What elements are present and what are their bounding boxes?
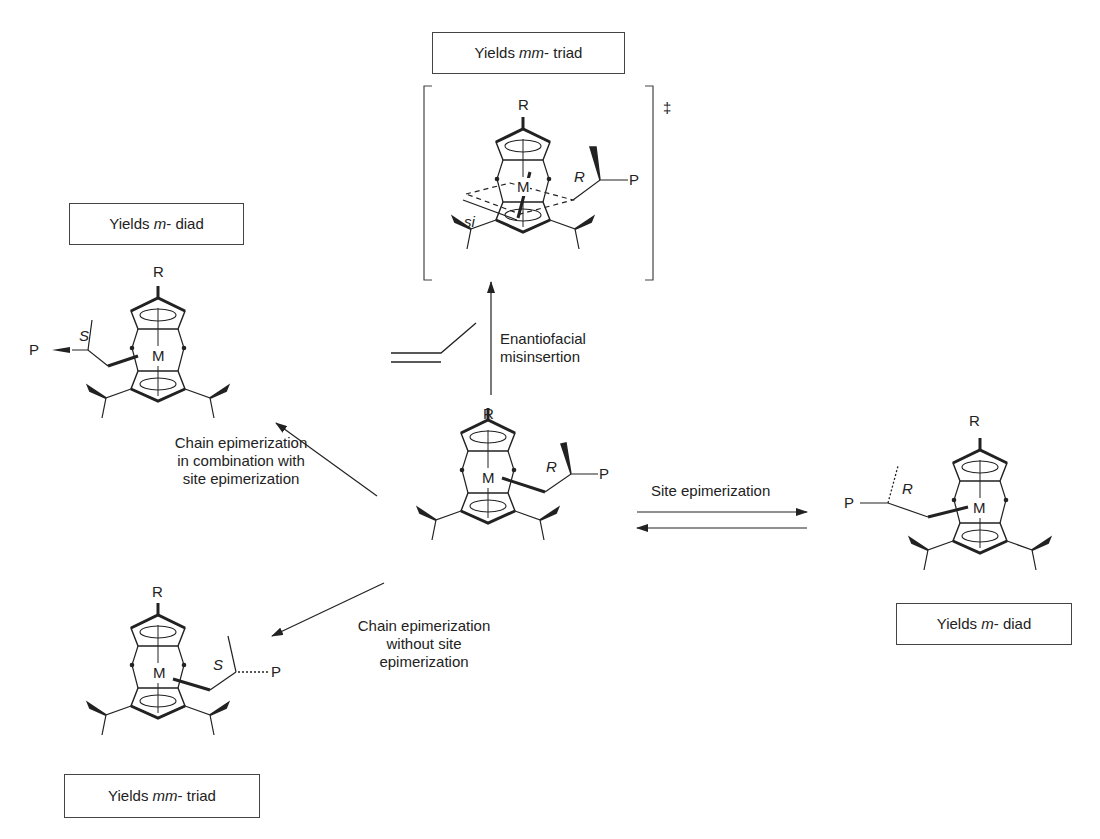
box-suffix: - triad bbox=[178, 775, 216, 817]
center-polymer: P bbox=[599, 465, 609, 483]
left-R-substituent: R bbox=[153, 263, 164, 281]
center-config-R: R bbox=[546, 458, 557, 476]
right-R-substituent: R bbox=[969, 412, 980, 430]
center-metal: M bbox=[482, 469, 495, 487]
label-line: without site bbox=[339, 635, 509, 653]
bottom-metal: M bbox=[153, 664, 166, 682]
enantiofacial-label: Enantiofacial misinsertion bbox=[500, 330, 586, 366]
ts-config-R: R bbox=[574, 168, 585, 186]
box-italic: m bbox=[154, 204, 167, 244]
reaction-scheme-drawing bbox=[0, 0, 1100, 839]
chain-epim-without-site-label: Chain epimerization without site epimeri… bbox=[339, 617, 509, 671]
box-italic: mm bbox=[153, 775, 178, 817]
label-line: misinsertion bbox=[500, 348, 586, 366]
bottom-config-S: S bbox=[213, 656, 223, 674]
right-polymer: P bbox=[844, 494, 854, 512]
label-line: Chain epimerization bbox=[339, 617, 509, 635]
label-line: epimerization bbox=[339, 653, 509, 671]
left-yield-box: Yields m- diad bbox=[69, 203, 244, 245]
bottom-polymer: P bbox=[271, 663, 281, 681]
ts-polymer: P bbox=[629, 171, 639, 189]
center-R-substituent: R bbox=[483, 405, 494, 423]
box-prefix: Yields bbox=[475, 33, 519, 73]
ts-metal: M bbox=[517, 178, 530, 196]
box-prefix: Yields bbox=[108, 775, 152, 817]
right-yield-box: Yields m- diad bbox=[896, 603, 1072, 645]
box-italic: mm bbox=[519, 33, 544, 73]
label-line: Enantiofacial bbox=[500, 330, 586, 348]
box-suffix: - diad bbox=[994, 604, 1032, 644]
site-epimerization-label: Site epimerization bbox=[651, 482, 770, 500]
box-prefix: Yields bbox=[109, 204, 153, 244]
left-metal: M bbox=[152, 347, 165, 365]
box-suffix: - triad bbox=[544, 33, 582, 73]
chain-epim-with-site-label: Chain epimerization in combination with … bbox=[166, 434, 316, 488]
ts-R-substituent: R bbox=[518, 96, 529, 114]
box-suffix: - diad bbox=[166, 204, 204, 244]
label-line: in combination with bbox=[166, 452, 316, 470]
right-config-R: R bbox=[902, 480, 913, 498]
transition-state-symbol: ‡ bbox=[663, 99, 671, 117]
bottom-yield-box: Yields mm- triad bbox=[64, 774, 260, 818]
label-line: site epimerization bbox=[166, 470, 316, 488]
ts-si-face: si bbox=[464, 213, 475, 231]
left-polymer: P bbox=[29, 341, 39, 359]
left-config-S: S bbox=[79, 327, 89, 345]
box-italic: m bbox=[981, 604, 994, 644]
label-line: Chain epimerization bbox=[166, 434, 316, 452]
right-metal: M bbox=[973, 499, 986, 517]
top-yield-box: Yields mm- triad bbox=[432, 32, 625, 74]
bottom-R-substituent: R bbox=[152, 583, 163, 601]
box-prefix: Yields bbox=[937, 604, 981, 644]
